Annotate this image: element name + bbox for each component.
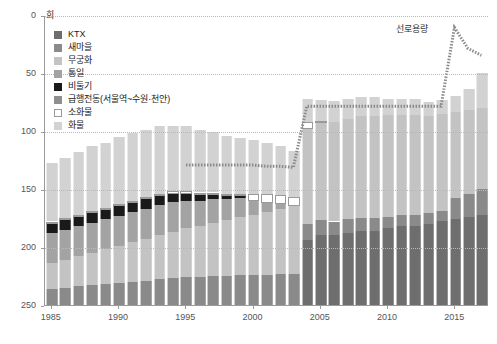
legend-item-label: 통일 (68, 67, 84, 80)
x-axis-tick-mark (454, 306, 455, 309)
x-axis-tick-mark (253, 306, 254, 309)
legend-item-label: 새마을 (68, 41, 92, 54)
x-axis-tick-mark (387, 306, 388, 309)
x-axis-tick-label: 1985 (41, 312, 61, 322)
legend-item-label: 급행전동(서울역~수원·천안) (68, 93, 170, 106)
chart-root: 회 250200150100500 1985199019952000200520… (0, 0, 497, 344)
x-axis-tick-label: 1990 (108, 312, 128, 322)
legend-swatch-icon (54, 70, 62, 78)
x-axis-tick-label: 2005 (310, 312, 330, 322)
legend-item-label: 소화물 (68, 106, 92, 119)
legend-swatch-icon (54, 83, 62, 91)
legend-swatch-icon (54, 44, 62, 52)
legend-item: 통일 (54, 67, 170, 80)
legend-item: KTX (54, 28, 170, 41)
x-axis-tick-mark (51, 306, 52, 309)
track-capacity-annotation: 선로용량 (396, 22, 428, 35)
x-axis-tick-label: 2015 (444, 312, 464, 322)
y-axis-tick-mark (41, 248, 44, 249)
y-axis-tick-label: 100 (8, 126, 36, 136)
legend-item: 급행전동(서울역~수원·천안) (54, 93, 170, 106)
legend-item: 화물 (54, 119, 170, 132)
legend-item-label: 비둘기 (68, 80, 92, 93)
y-axis-tick-label: 0 (8, 10, 36, 20)
legend-item: 비둘기 (54, 80, 170, 93)
x-axis-tick-label: 2000 (243, 312, 263, 322)
gridline (45, 190, 488, 191)
gridline (45, 132, 488, 133)
x-axis-tick-mark (320, 306, 321, 309)
gridline (45, 16, 488, 17)
legend-swatch-icon (54, 96, 62, 104)
legend-swatch-icon (54, 57, 62, 65)
capacity-polyline (186, 28, 481, 168)
legend-swatch-icon (54, 122, 62, 130)
legend-swatch-icon (54, 109, 62, 117)
legend-item: 새마을 (54, 41, 170, 54)
legend: KTX새마을무궁화통일비둘기급행전동(서울역~수원·천안)소화물화물 (54, 28, 170, 132)
y-axis-tick-mark (41, 306, 44, 307)
y-axis-tick-mark (41, 74, 44, 75)
legend-item: 무궁화 (54, 54, 170, 67)
y-axis-tick-label: 200 (8, 242, 36, 252)
legend-item-label: 화물 (68, 119, 84, 132)
x-axis-tick-mark (185, 306, 186, 309)
legend-item-label: 무궁화 (68, 54, 92, 67)
legend-item-label: KTX (68, 28, 86, 41)
y-axis-tick-label: 50 (8, 68, 36, 78)
y-axis-tick-mark (41, 16, 44, 17)
gridline (45, 248, 488, 249)
legend-swatch-icon (54, 31, 62, 39)
x-axis-tick-label: 1995 (175, 312, 195, 322)
x-axis-tick-label: 2010 (377, 312, 397, 322)
x-axis-tick-mark (118, 306, 119, 309)
y-axis-tick-label: 150 (8, 184, 36, 194)
y-axis-tick-mark (41, 190, 44, 191)
y-axis-tick-label: 250 (8, 300, 36, 310)
legend-item: 소화물 (54, 106, 170, 119)
y-axis-tick-mark (41, 132, 44, 133)
